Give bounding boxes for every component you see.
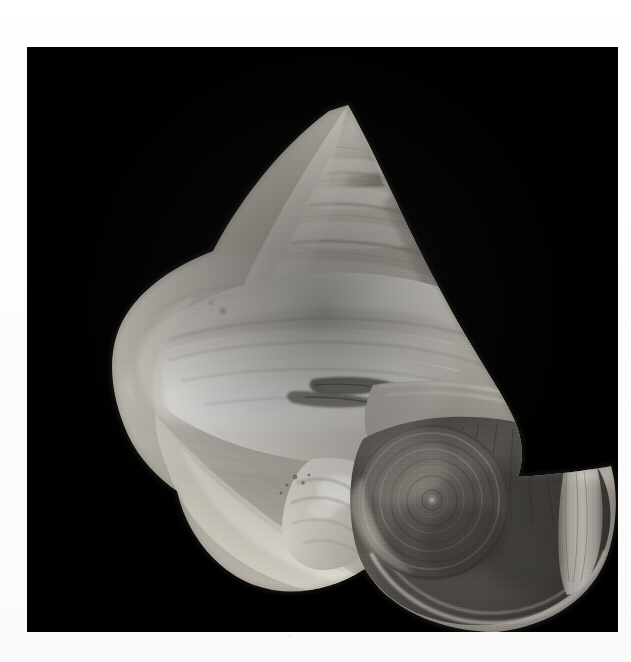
gastropod-shell-image	[27, 47, 618, 632]
plate-caption	[27, 636, 618, 658]
photographic-plate	[27, 47, 618, 632]
photo-page	[0, 0, 631, 662]
